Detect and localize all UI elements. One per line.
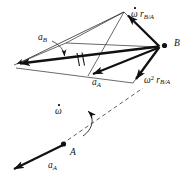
label-omega-dot-r-ba: ω rB/A xyxy=(131,10,154,20)
angular-acceleration-arc xyxy=(83,111,92,136)
label-point-a: A xyxy=(70,148,76,158)
equal-length-ticks xyxy=(77,53,85,67)
omega-glyph: ω xyxy=(144,75,151,85)
angular-acceleration-arc-group xyxy=(83,111,92,136)
construction-lines xyxy=(14,12,159,83)
construction-mid-to-b-edge xyxy=(66,43,159,47)
construction-lower-chord xyxy=(16,68,133,83)
omega-dot-glyph: ω xyxy=(55,107,62,117)
heavy-vectors xyxy=(14,16,160,170)
tick-mark-1 xyxy=(77,53,80,66)
label-omega-squared-r-ba: ω2 rB/A xyxy=(144,75,170,86)
omega-dot-glyph: ω xyxy=(131,10,138,20)
point-b-dot xyxy=(162,43,167,48)
diagram-canvas xyxy=(0,0,194,179)
vector-diagram-figure: ω rB/A ω2 rB/A B A aB aA aA ω xyxy=(0,0,194,179)
label-a-b: aB xyxy=(38,33,47,43)
point-a-dot xyxy=(61,141,66,146)
r-subscript: B/A xyxy=(144,13,154,20)
r-subscript: B/A xyxy=(160,78,170,85)
label-point-b: B xyxy=(174,39,180,49)
a-subscript: B xyxy=(43,36,47,43)
label-a-a-at-point-a: aA xyxy=(48,161,57,171)
line-relative-position-ab xyxy=(62,88,143,144)
a-subscript: A xyxy=(53,164,57,171)
a-subscript: A xyxy=(97,81,101,88)
label-a-a-translated: aA xyxy=(92,78,101,88)
dashed-lines xyxy=(62,88,143,144)
label-omega-dot-angular-accel: ω xyxy=(55,107,62,117)
